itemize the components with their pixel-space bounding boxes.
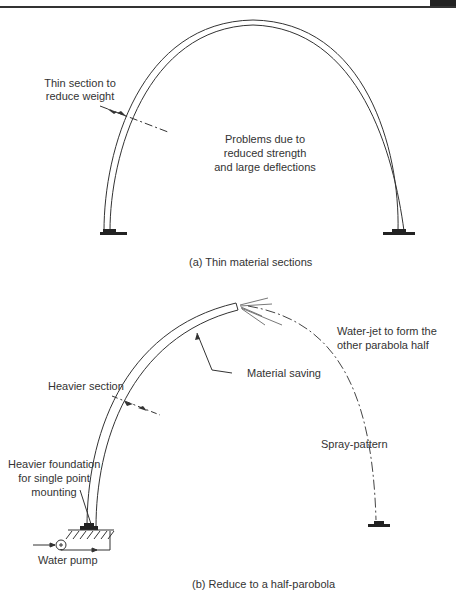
problems-label: Problems due to reduced strength and lar…	[200, 132, 330, 174]
problems-label-line3: and large deflections	[200, 160, 330, 174]
thin-section-dimension	[100, 106, 168, 132]
water-jet-label-line1: Water-jet to form the	[337, 324, 437, 338]
problems-label-line2: reduced strength	[200, 146, 330, 160]
thin-section-label-line2: reduce weight	[36, 90, 124, 103]
foundation-label-line3: mounting	[8, 485, 100, 499]
heavier-section-label: Heavier section	[48, 380, 124, 393]
spray-end-base-plate	[368, 521, 390, 527]
arch-inner-edge	[110, 25, 404, 231]
water-jet-label-line2: other parabola half	[337, 338, 437, 352]
problems-label-line1: Problems due to	[200, 132, 330, 146]
foundation-label-line2: for single point	[8, 471, 100, 485]
figure-a-caption: (a) Thin material sections	[189, 256, 312, 268]
full-arch	[104, 20, 404, 231]
figure-b-caption: (b) Reduce to a half-parobola	[192, 578, 335, 590]
half-arch-inner-edge	[96, 310, 238, 527]
material-saving-leader	[197, 333, 232, 373]
half-arch-outer-edge	[87, 303, 236, 527]
half-arch	[87, 303, 238, 527]
thin-section-label: Thin section to reduce weight	[36, 77, 124, 103]
water-pump-label: Water pump	[38, 554, 98, 567]
material-saving-label: Material saving	[247, 367, 321, 380]
heavy-foundation	[66, 523, 114, 539]
thin-section-label-line1: Thin section to	[36, 77, 124, 90]
water-pump	[33, 531, 110, 552]
foundation-label-line1: Heavier foundation	[8, 457, 100, 471]
arch-outer-edge	[104, 20, 398, 231]
spray-pattern-label: Spray-pattern	[321, 438, 388, 451]
right-base-plate	[383, 229, 415, 235]
water-jet-label: Water-jet to form the other parabola hal…	[337, 324, 437, 352]
foundation-label: Heavier foundation for single point moun…	[8, 457, 100, 499]
left-base-plate	[100, 229, 127, 235]
spray-burst	[240, 298, 282, 325]
